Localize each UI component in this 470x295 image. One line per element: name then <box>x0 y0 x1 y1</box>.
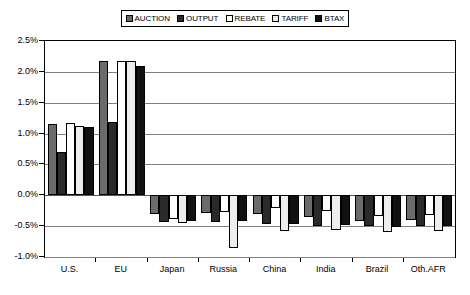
x-axis-tick-label: China <box>249 264 300 274</box>
legend-label-auction: AUCTION <box>135 14 170 23</box>
y-axis-tick-label: 1.5% <box>0 98 38 107</box>
x-axis-tick-mark <box>147 258 148 262</box>
x-axis-tick-mark <box>249 258 250 262</box>
y-axis-tick-label: 0.5% <box>0 159 38 168</box>
y-axis-tick-label: 1.0% <box>0 129 38 138</box>
x-axis-tick-label: India <box>300 264 351 274</box>
bar-japan-tariff <box>178 195 187 223</box>
legend-item-output: OUTPUT <box>177 14 218 23</box>
bar-othafr-rebate <box>425 195 434 215</box>
y-axis-tick-label: 2.0% <box>0 67 38 76</box>
legend-item-tariff: TARIFF <box>272 14 308 23</box>
bar-brazil-rebate <box>374 195 383 215</box>
legend-item-rebate: REBATE <box>226 14 266 23</box>
legend-swatch-auction-icon <box>126 15 133 22</box>
x-axis-tick-label: U.S. <box>44 264 95 274</box>
x-axis-tick-label: EU <box>95 264 146 274</box>
bar-china-tariff <box>280 195 289 231</box>
bar-russia-rebate <box>220 195 229 212</box>
bar-india-btax <box>341 195 350 225</box>
bar-russia-btax <box>238 195 247 221</box>
bar-russia-auction <box>201 195 210 212</box>
bar-china-btax <box>289 195 298 224</box>
bar-brazil-auction <box>355 195 364 221</box>
bar-india-rebate <box>322 195 331 210</box>
legend-label-rebate: REBATE <box>235 14 266 23</box>
bar-china-output <box>262 195 271 224</box>
bar-chart: AUCTION OUTPUT REBATE TARIFF BTAX 2.5%2.… <box>0 0 470 295</box>
bar-othafr-btax <box>443 195 452 226</box>
bar-china-rebate <box>271 195 280 207</box>
x-axis: U.S.EUJapanRussiaChinaIndiaBrazilOth.AFR <box>44 262 456 278</box>
x-axis-tick-mark <box>403 258 404 262</box>
bar-russia-tariff <box>229 195 238 247</box>
y-axis-tick-label: 0.0% <box>0 190 38 199</box>
legend-label-btax: BTAX <box>324 14 344 23</box>
bar-eu-output <box>108 122 117 195</box>
bar-japan-auction <box>150 195 159 214</box>
bar-russia-output <box>211 195 220 222</box>
bar-india-auction <box>304 195 313 217</box>
chart-legend: AUCTION OUTPUT REBATE TARIFF BTAX <box>121 10 349 27</box>
bar-india-output <box>313 195 322 226</box>
plot-area <box>44 40 456 258</box>
bar-us-auction <box>48 124 57 195</box>
y-axis-tick-label: -0.5% <box>0 221 38 230</box>
bar-othafr-tariff <box>434 195 443 231</box>
x-axis-tick-mark <box>352 258 353 262</box>
legend-label-tariff: TARIFF <box>281 14 308 23</box>
bar-eu-tariff <box>126 61 135 196</box>
x-axis-tick-label: Oth.AFR <box>403 264 454 274</box>
bar-eu-rebate <box>117 61 126 195</box>
x-axis-tick-mark <box>198 258 199 262</box>
bar-us-btax <box>84 127 93 195</box>
x-axis-tick-mark <box>300 258 301 262</box>
x-axis-tick-mark <box>95 258 96 262</box>
bar-us-output <box>57 152 66 195</box>
bar-eu-btax <box>136 66 145 196</box>
bar-china-auction <box>253 195 262 214</box>
bar-brazil-btax <box>392 195 401 227</box>
x-axis-tick-label: Brazil <box>352 264 403 274</box>
legend-item-auction: AUCTION <box>126 14 170 23</box>
bar-othafr-output <box>416 195 425 226</box>
y-axis-tick-label: -1.0% <box>0 252 38 261</box>
bar-eu-auction <box>99 61 108 196</box>
bar-india-tariff <box>331 195 340 230</box>
bar-us-tariff <box>75 126 84 196</box>
legend-swatch-btax-icon <box>315 15 322 22</box>
legend-swatch-rebate-icon <box>226 15 233 22</box>
bar-japan-rebate <box>169 195 178 218</box>
bar-brazil-output <box>364 195 373 226</box>
legend-swatch-output-icon <box>177 15 184 22</box>
x-axis-tick-label: Japan <box>147 264 198 274</box>
y-axis-tick-label: 2.5% <box>0 36 38 45</box>
legend-item-btax: BTAX <box>315 14 344 23</box>
x-axis-tick-label: Russia <box>198 264 249 274</box>
bar-japan-output <box>159 195 168 222</box>
legend-swatch-tariff-icon <box>272 15 279 22</box>
bar-brazil-tariff <box>383 195 392 232</box>
legend-label-output: OUTPUT <box>186 14 218 23</box>
bar-us-rebate <box>66 123 75 195</box>
gridline <box>45 257 455 258</box>
plot-inner <box>45 41 455 257</box>
bar-japan-btax <box>187 195 196 221</box>
bar-othafr-auction <box>406 195 415 220</box>
